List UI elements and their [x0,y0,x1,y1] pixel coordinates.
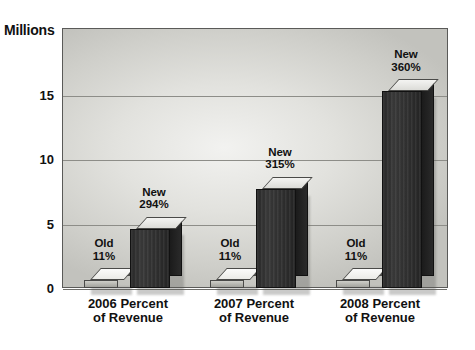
y-axis-title: Millions [4,22,55,38]
x-axis-category-line1: 2007 Percent [214,297,294,311]
x-axis-category-line2: of Revenue [340,311,420,325]
bar-label-old-2006-line2: 11% [93,250,115,262]
bar-old-2006-front-face [84,280,118,288]
bar-label-new-2006-line2: 294% [139,198,168,210]
bar-new-2007-side-face [296,177,308,276]
bar-old-2007-front-face [210,280,244,288]
bar-label-old-2008: Old11% [345,237,367,262]
bar-label-new-2007: New315% [265,146,294,171]
bar-old-2008-front-face [336,280,370,288]
x-axis-category-2007: 2007 Percentof Revenue [214,297,294,326]
bar-old-2008-shadow [343,287,384,295]
y-tick-label-5: 5 [10,216,54,231]
bar-new-2008-side-face [422,79,434,276]
bar-label-new-2007-line1: New [265,146,294,158]
bar-new-2008[interactable] [382,79,434,288]
bar-label-new-2006-line1: New [139,186,168,198]
bar-label-old-2008-line1: Old [345,237,367,249]
x-axis-category-line2: of Revenue [214,311,294,325]
bar-label-old-2007-line2: 11% [219,250,241,262]
bar-old-2008[interactable] [336,268,382,288]
bar-old-2007-shadow [217,287,258,295]
bar-label-new-2008-line1: New [391,48,420,60]
bar-new-2006[interactable] [130,217,182,288]
bar-label-new-2008-line2: 360% [391,61,420,73]
bar-label-new-2008: New360% [391,48,420,73]
bar-chart: Millions 051015Old11%New294%2006 Percent… [0,0,475,350]
bar-new-2006-front-face [130,229,170,288]
bar-label-old-2006-line1: Old [93,237,115,249]
bar-label-old-2007-line1: Old [219,237,241,249]
bar-old-2007[interactable] [210,268,256,288]
bar-new-2007[interactable] [256,177,308,288]
bar-label-new-2007-line2: 315% [265,158,294,170]
x-axis-category-2008: 2008 Percentof Revenue [340,297,420,326]
bar-old-2008-top-face [342,268,387,280]
x-axis-category-line1: 2008 Percent [340,297,420,311]
bar-new-2007-front-face [256,189,296,288]
x-axis-category-2006: 2006 Percentof Revenue [88,297,168,326]
bar-old-2006-top-face [90,268,135,280]
bar-old-2006[interactable] [84,268,130,288]
x-axis-category-line1: 2006 Percent [88,297,168,311]
bar-old-2007-top-face [216,268,261,280]
y-tick-label-0: 0 [10,281,54,296]
bar-old-2006-shadow [91,287,132,295]
x-axis-category-line2: of Revenue [88,311,168,325]
bar-label-old-2007: Old11% [219,237,241,262]
y-tick-label-10: 10 [10,152,54,167]
y-tick-label-15: 15 [10,88,54,103]
bar-label-new-2006: New294% [139,186,168,211]
bar-label-old-2006: Old11% [93,237,115,262]
bar-new-2008-front-face [382,91,422,288]
bar-label-old-2008-line2: 11% [345,250,367,262]
